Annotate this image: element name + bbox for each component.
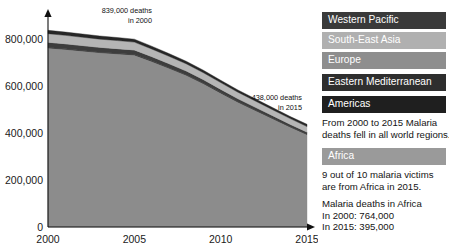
- all-regions-note-line-1: From 2000 to 2015 Malaria: [322, 117, 449, 129]
- legend-item-eastern-mediterranean[interactable]: Eastern Mediterranean: [322, 74, 446, 91]
- annotation-start-total-line-2: in 2000: [128, 16, 152, 25]
- x-axis-arrow-icon: [307, 223, 315, 230]
- x-tick-label-2010: 2010: [209, 233, 233, 245]
- y-axis-arrow-icon: [44, 9, 51, 17]
- x-tick-label-2000: 2000: [36, 233, 60, 245]
- all-regions-note-line-2: deaths fell in all world regions.: [322, 129, 449, 141]
- legend-label-south-east-asia: South-East Asia: [328, 35, 401, 45]
- x-tick-label-2005: 2005: [123, 233, 147, 245]
- malaria-deaths-figure: 0200,000400,000600,000800,000 2000200520…: [0, 0, 449, 250]
- africa-share-note: 9 out of 10 malaria victims are from Afr…: [322, 169, 449, 192]
- area-series-africa: [48, 48, 307, 227]
- y-tick-label-0: 0: [37, 221, 43, 233]
- y-tick-labels-group: 0200,000400,000600,000800,000: [5, 33, 43, 233]
- all-regions-note: From 2000 to 2015 Malaria deaths fell in…: [322, 117, 449, 140]
- africa-stats-block: Malaria deaths in Africa In 2000: 764,00…: [322, 198, 449, 233]
- legend-label-western-pacific: Western Pacific: [328, 15, 399, 25]
- legend-and-notes-panel: Western Pacific South-East Asia Europe E…: [322, 0, 449, 250]
- africa-stats-title: Malaria deaths in Africa: [322, 198, 449, 210]
- x-tick-labels-group: 2000200520102015: [36, 233, 318, 245]
- africa-share-note-line-2: are from Africa in 2015.: [322, 181, 449, 193]
- area-series-group: [48, 30, 307, 227]
- africa-share-note-line-1: 9 out of 10 malaria victims: [322, 169, 449, 181]
- africa-stats-2000: In 2000: 764,000: [322, 210, 449, 222]
- chart-canvas: 0200,000400,000600,000800,000 2000200520…: [0, 0, 318, 250]
- x-tick-label-2015: 2015: [295, 233, 318, 245]
- legend-label-eastern-mediterranean: Eastern Mediterranean: [328, 77, 432, 87]
- legend-item-south-east-asia[interactable]: South-East Asia: [322, 32, 446, 49]
- annotation-end-total-line-2: in 2015: [278, 103, 302, 112]
- annotation-end-total-line-1: 438,000 deaths: [252, 93, 303, 102]
- annotation-start-total-line-1: 839,000 deaths: [102, 6, 153, 15]
- stacked-area-chart: 0200,000400,000600,000800,000 2000200520…: [0, 0, 318, 250]
- legend-label-americas: Americas: [328, 99, 370, 109]
- legend-label-africa: Africa: [328, 151, 354, 161]
- legend-item-africa[interactable]: Africa: [322, 148, 446, 165]
- legend-item-europe[interactable]: Europe: [322, 52, 446, 69]
- legend-item-western-pacific[interactable]: Western Pacific: [322, 12, 446, 29]
- y-tick-label-400000: 400,000: [5, 127, 43, 139]
- y-tick-label-200000: 200,000: [5, 174, 43, 186]
- y-tick-label-800000: 800,000: [5, 33, 43, 45]
- y-tick-label-600000: 600,000: [5, 80, 43, 92]
- legend-label-europe: Europe: [328, 55, 361, 65]
- legend-item-americas[interactable]: Americas: [322, 96, 446, 113]
- africa-stats-2015: In 2015: 395,000: [322, 221, 449, 233]
